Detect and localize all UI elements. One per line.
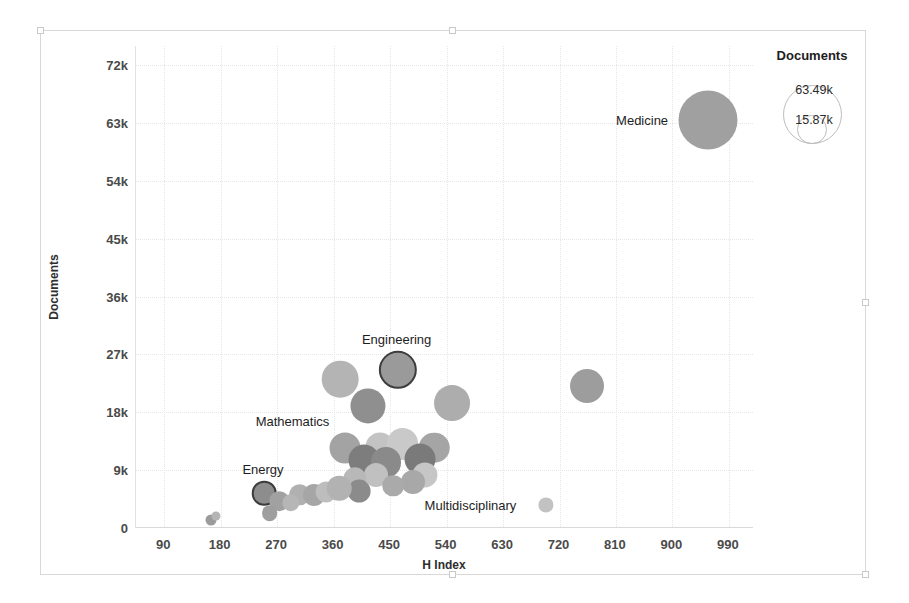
- size-legend: Documents 63.49k15.87k: [764, 40, 860, 150]
- gridline-horizontal-54k: [136, 181, 753, 182]
- gridline-horizontal-36k: [136, 297, 753, 298]
- gridline-horizontal-9k: [136, 470, 753, 471]
- y-tick-label-45k: 45k: [106, 231, 128, 246]
- x-tick-label-540: 540: [435, 537, 457, 552]
- x-tick-label-990: 990: [717, 537, 739, 552]
- y-tick-label-9k: 9k: [114, 463, 128, 478]
- bubble-5[interactable]: [434, 385, 470, 421]
- point-label-energy: Energy: [242, 462, 283, 477]
- y-tick-label-27k: 27k: [106, 347, 128, 362]
- point-label-mathematics: Mathematics: [256, 413, 330, 428]
- gridline-vertical-630: [503, 46, 504, 527]
- gridline-vertical-180: [221, 46, 222, 527]
- bubble-multidisciplinary[interactable]: [538, 497, 553, 512]
- x-tick-label-90: 90: [156, 537, 170, 552]
- bubble-3[interactable]: [322, 361, 359, 398]
- resize-handle-right[interactable]: [862, 299, 869, 306]
- y-tick-label-36k: 36k: [106, 289, 128, 304]
- x-tick-label-270: 270: [265, 537, 287, 552]
- resize-handle-top-left[interactable]: [37, 27, 44, 34]
- bubble-26[interactable]: [262, 505, 278, 521]
- point-label-multidisciplinary: Multidisciplinary: [425, 497, 517, 512]
- bubble-22[interactable]: [327, 476, 352, 501]
- y-tick-label-54k: 54k: [106, 173, 128, 188]
- y-tick-label-72k: 72k: [106, 58, 128, 73]
- legend-value-63.49k: 63.49k: [795, 83, 833, 97]
- point-label-medicine: Medicine: [616, 112, 668, 127]
- resize-handle-top[interactable]: [449, 27, 456, 34]
- x-tick-label-900: 900: [661, 537, 683, 552]
- y-tick-label-63k: 63k: [106, 116, 128, 131]
- gridline-horizontal-72k: [136, 65, 753, 66]
- legend-value-15.87k: 15.87k: [795, 113, 833, 127]
- bubble-1[interactable]: [570, 369, 604, 403]
- point-label-engineering: Engineering: [362, 331, 431, 346]
- gridline-horizontal-27k: [136, 354, 753, 355]
- bubble-18[interactable]: [382, 475, 404, 497]
- y-tick-label-0: 0: [121, 521, 128, 536]
- gridline-horizontal-45k: [136, 239, 753, 240]
- x-axis-title: H Index: [422, 558, 465, 572]
- x-tick-label-810: 810: [604, 537, 626, 552]
- gridline-vertical-720: [560, 46, 561, 527]
- bubble-4[interactable]: [350, 388, 385, 423]
- x-tick-label-630: 630: [491, 537, 513, 552]
- x-tick-label-450: 450: [378, 537, 400, 552]
- gridline-vertical-90: [164, 46, 165, 527]
- x-tick-label-720: 720: [548, 537, 570, 552]
- bubble-16[interactable]: [401, 470, 425, 494]
- x-tick-label-360: 360: [322, 537, 344, 552]
- resize-handle-bottom-right[interactable]: [862, 571, 869, 578]
- gridline-vertical-900: [672, 46, 673, 527]
- legend-title: Documents: [777, 48, 848, 63]
- resize-handle-bottom[interactable]: [449, 571, 456, 578]
- y-axis-title: Documents: [47, 254, 61, 319]
- bubble-medicine[interactable]: [679, 90, 738, 149]
- bubble-engineering[interactable]: [378, 351, 416, 389]
- gridline-vertical-270: [277, 46, 278, 527]
- x-tick-label-180: 180: [209, 537, 231, 552]
- bubble-29[interactable]: [211, 511, 220, 520]
- bubble-25[interactable]: [282, 494, 299, 511]
- y-tick-label-18k: 18k: [106, 405, 128, 420]
